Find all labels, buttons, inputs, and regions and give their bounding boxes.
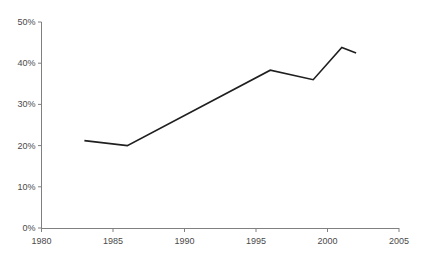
y-axis-tick-label: 20% xyxy=(17,141,35,151)
x-axis-tick-label: 1995 xyxy=(246,236,266,246)
x-axis-tick-label: 1990 xyxy=(174,236,194,246)
x-axis-tick-label: 2005 xyxy=(389,236,409,246)
x-axis-tick-label: 2000 xyxy=(317,236,337,246)
chart-plot-area xyxy=(0,0,423,258)
y-axis-ticks xyxy=(38,22,42,228)
y-axis-tick-label: 30% xyxy=(17,99,35,109)
x-axis-tick-label: 1980 xyxy=(31,236,51,246)
y-axis-tick-label: 50% xyxy=(17,17,35,27)
y-axis-tick-label: 10% xyxy=(17,182,35,192)
y-axis-tick-label: 0% xyxy=(22,223,35,233)
x-axis-tick-label: 1985 xyxy=(103,236,123,246)
line-chart: 0%10%20%30%40%50% 1980198519901995200020… xyxy=(0,0,423,258)
y-axis-tick-label: 40% xyxy=(17,58,35,68)
data-series-line xyxy=(84,48,356,146)
